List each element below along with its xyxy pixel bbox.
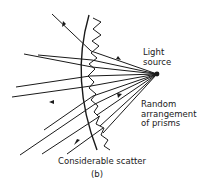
prisms-label: Random arrangement of prisms — [141, 100, 197, 129]
panel-label: (b) — [91, 170, 103, 180]
arrow-head — [49, 100, 54, 104]
lens-curve — [81, 15, 97, 150]
light-source-label: Light source — [143, 48, 171, 67]
arrow-head — [116, 56, 121, 60]
label-line: of prisms — [141, 119, 197, 129]
caption: Considerable scatter — [58, 157, 146, 167]
ray-exit — [16, 76, 90, 87]
arrow-head — [74, 139, 80, 145]
ray-exit — [38, 55, 92, 60]
label-line: source — [143, 58, 171, 68]
prism-zigzag-edge — [88, 18, 110, 150]
arrow-head — [117, 93, 122, 98]
ray-exit — [20, 104, 95, 155]
ray-exit — [67, 128, 103, 154]
ray-exit — [12, 86, 91, 97]
